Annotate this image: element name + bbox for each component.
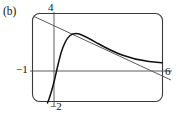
axis-label-left: −1 [16, 64, 28, 75]
axis-label-top: 4 [48, 2, 54, 13]
figure-panel: (b) 4 −1 6 −2 [0, 0, 180, 120]
plot-svg [0, 0, 180, 120]
axis-label-right: 6 [165, 66, 171, 77]
axis-label-bottom: −2 [50, 101, 62, 112]
